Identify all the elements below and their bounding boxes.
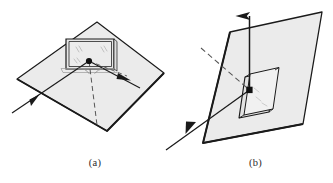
panel-b-group <box>166 12 322 150</box>
ground-plane-a <box>17 22 164 131</box>
vertex-point-b <box>246 87 252 93</box>
upright-screen-a-side <box>114 39 117 71</box>
figure-illustration <box>0 0 333 183</box>
panel-caption-a: (a) <box>0 157 190 168</box>
incident-ray-arrowhead-a <box>30 95 40 107</box>
panel-a-group <box>12 22 164 131</box>
panel-caption-b: (b) <box>178 157 333 168</box>
figure-container: (a) (b) <box>0 0 333 183</box>
vertex-point-a <box>86 58 92 64</box>
